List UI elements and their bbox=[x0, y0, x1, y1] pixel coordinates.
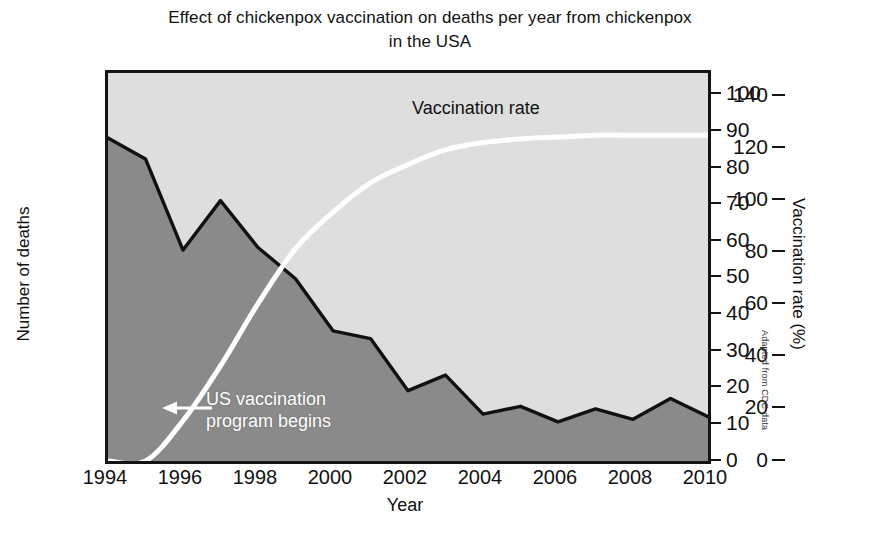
left-arrow-icon bbox=[160, 398, 212, 418]
x-axis-tick-label: 2002 bbox=[383, 466, 428, 489]
y-axis-left-tick bbox=[772, 406, 785, 408]
y-axis-right-tick-label: 30 bbox=[726, 338, 749, 362]
y-axis-right-tick-label: 40 bbox=[726, 301, 749, 325]
x-axis-tick-label: 2010 bbox=[683, 466, 728, 489]
y-axis-right-tick-label: 70 bbox=[726, 191, 749, 215]
x-axis-tick-label: 2004 bbox=[458, 466, 503, 489]
y-axis-right-tick-label: 20 bbox=[726, 374, 749, 398]
y-axis-right-tick bbox=[708, 92, 721, 94]
annotation-line-1: US vaccination bbox=[206, 388, 331, 410]
y-axis-left-tick bbox=[772, 198, 785, 200]
y-axis-right-tick bbox=[708, 312, 721, 314]
y-axis-left-tick bbox=[772, 146, 785, 148]
y-axis-right-tick bbox=[708, 422, 721, 424]
y-axis-right-tick bbox=[708, 275, 721, 277]
y-axis-right-tick-label: 80 bbox=[726, 155, 749, 179]
y-axis-right-tick-label: 50 bbox=[726, 264, 749, 288]
chart-title-line-2: in the USA bbox=[100, 30, 760, 54]
chart-figure: Effect of chickenpox vaccination on deat… bbox=[0, 0, 869, 541]
x-axis-tick-label: 1998 bbox=[233, 466, 278, 489]
y-axis-right-tick-label: 0 bbox=[726, 448, 738, 472]
y-axis-right-tick-label: 90 bbox=[726, 118, 749, 142]
y-axis-right-tick-label: 60 bbox=[726, 228, 749, 252]
vaccination-program-annotation: US vaccination program begins bbox=[206, 388, 331, 432]
source-credit: Adapted from CDC data bbox=[760, 330, 770, 510]
y-axis-right-tick bbox=[708, 202, 721, 204]
x-axis-tick-label: 1994 bbox=[83, 466, 128, 489]
y-axis-right-tick-label: 10 bbox=[726, 411, 749, 435]
y-axis-right-tick bbox=[708, 129, 721, 131]
y-axis-left-tick bbox=[772, 354, 785, 356]
y-axis-right-title: Vaccination rate (%) bbox=[788, 144, 808, 404]
y-axis-left-tick bbox=[772, 302, 785, 304]
chart-title-line-1: Effect of chickenpox vaccination on deat… bbox=[100, 6, 760, 30]
y-axis-right-tick bbox=[708, 166, 721, 168]
x-axis-tick-label: 1996 bbox=[158, 466, 203, 489]
x-axis-title: Year bbox=[0, 495, 810, 516]
vaccination-rate-series-label: Vaccination rate bbox=[412, 98, 540, 119]
chart-title: Effect of chickenpox vaccination on deat… bbox=[100, 6, 760, 54]
x-axis-tick-label: 2006 bbox=[533, 466, 578, 489]
y-axis-left-tick bbox=[772, 94, 785, 96]
x-axis-tick-label: 2008 bbox=[608, 466, 653, 489]
y-axis-right-tick-label: 100 bbox=[726, 81, 761, 105]
y-axis-right-tick bbox=[708, 239, 721, 241]
annotation-line-2: program begins bbox=[206, 410, 331, 432]
y-axis-right-tick bbox=[708, 349, 721, 351]
y-axis-left-tick bbox=[772, 250, 785, 252]
y-axis-right-tick bbox=[708, 385, 721, 387]
x-axis-tick-label: 2000 bbox=[308, 466, 353, 489]
y-axis-right-tick bbox=[708, 459, 721, 461]
y-axis-left-tick bbox=[772, 459, 785, 461]
y-axis-left-title: Number of deaths bbox=[14, 154, 34, 394]
